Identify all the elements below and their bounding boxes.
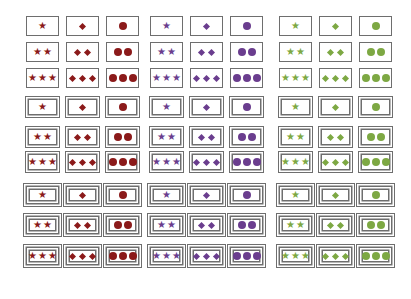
card-r3-c4-3-purple-star-single[interactable]: ★★★: [150, 68, 183, 88]
diamond-icon: [332, 74, 339, 81]
card-r4-c3-1-red-oval-double[interactable]: [105, 96, 140, 118]
card-r1-c8-1-green-diamond-single[interactable]: [319, 16, 352, 36]
card-r7-c1-1-red-star-triple[interactable]: ★: [23, 183, 62, 207]
oval-icon: [243, 103, 251, 111]
card-r7-c5-1-purple-diamond-triple[interactable]: [187, 183, 226, 207]
card-r9-c8-3-green-diamond-triple[interactable]: [316, 244, 355, 268]
diamond-icon: [322, 74, 329, 81]
oval-icon: [238, 48, 246, 56]
card-r3-c9-3-green-oval-single[interactable]: [359, 68, 392, 88]
oval-icon: [243, 74, 251, 82]
oval-icon: [124, 221, 132, 229]
oval-icon: [238, 133, 246, 141]
card-r8-c4-2-purple-star-triple[interactable]: ★★: [147, 213, 186, 237]
card-r9-c5-3-purple-diamond-triple[interactable]: [187, 244, 226, 268]
card-r5-c7-2-green-star-double[interactable]: ★★: [278, 126, 313, 148]
card-r8-c7-2-green-star-triple[interactable]: ★★: [276, 213, 315, 237]
diamond-icon: [74, 221, 81, 228]
card-r2-c6-2-purple-oval-single[interactable]: [230, 42, 263, 62]
card-r5-c6-2-purple-oval-double[interactable]: [229, 126, 264, 148]
card-r8-c1-2-red-star-triple[interactable]: ★★: [23, 213, 62, 237]
card-r3-c6-3-purple-oval-single[interactable]: [230, 68, 263, 88]
card-r1-c3-1-red-oval-single[interactable]: [106, 16, 139, 36]
oval-icon: [367, 48, 375, 56]
card-r3-c1-3-red-star-single[interactable]: ★★★: [26, 68, 59, 88]
card-r2-c2-2-red-diamond-single[interactable]: [66, 42, 99, 62]
card-r7-c6-1-purple-oval-triple[interactable]: [227, 183, 266, 207]
card-r6-c9-3-green-oval-double[interactable]: [358, 151, 393, 173]
card-r1-c2-1-red-diamond-single[interactable]: [66, 16, 99, 36]
card-r8-c6-2-purple-oval-triple[interactable]: [227, 213, 266, 237]
card-r3-c5-3-purple-diamond-single[interactable]: [190, 68, 223, 88]
card-r6-c4-3-purple-star-double[interactable]: ★★★: [149, 151, 184, 173]
diamond-icon: [193, 74, 200, 81]
card-r8-c5-2-purple-diamond-triple[interactable]: [187, 213, 226, 237]
card-r7-c4-1-purple-star-triple[interactable]: ★: [147, 183, 186, 207]
card-r6-c7-3-green-star-double[interactable]: ★★★: [278, 151, 313, 173]
card-r2-c7-2-green-star-single[interactable]: ★★: [279, 42, 312, 62]
card-r4-c6-1-purple-oval-double[interactable]: [229, 96, 264, 118]
card-r4-c2-1-red-diamond-double[interactable]: [65, 96, 100, 118]
card-r5-c3-2-red-oval-double[interactable]: [105, 126, 140, 148]
card-r3-c8-3-green-diamond-single[interactable]: [319, 68, 352, 88]
card-r4-c7-1-green-star-double[interactable]: ★: [278, 96, 313, 118]
card-r9-c4-3-purple-star-triple[interactable]: ★★★: [147, 244, 186, 268]
card-r1-c9-1-green-oval-single[interactable]: [359, 16, 392, 36]
card-r1-c1-1-red-star-single[interactable]: ★: [26, 16, 59, 36]
diamond-icon: [79, 22, 86, 29]
card-r6-c8-3-green-diamond-double[interactable]: [318, 151, 353, 173]
card-r1-c5-1-purple-diamond-single[interactable]: [190, 16, 223, 36]
card-r9-c9-3-green-oval-triple[interactable]: [356, 244, 395, 268]
card-r3-c7-3-green-star-single[interactable]: ★★★: [279, 68, 312, 88]
oval-icon: [372, 158, 380, 166]
card-r2-c5-2-purple-diamond-single[interactable]: [190, 42, 223, 62]
oval-icon: [233, 158, 241, 166]
card-r4-c8-1-green-diamond-double[interactable]: [318, 96, 353, 118]
card-r1-c6-1-purple-oval-single[interactable]: [230, 16, 263, 36]
oval-icon: [382, 158, 390, 166]
card-r5-c1-2-red-star-double[interactable]: ★★: [25, 126, 60, 148]
oval-icon: [362, 252, 370, 260]
card-r4-c4-1-purple-star-double[interactable]: ★: [149, 96, 184, 118]
card-r7-c8-1-green-diamond-triple[interactable]: [316, 183, 355, 207]
card-r5-c9-2-green-oval-double[interactable]: [358, 126, 393, 148]
card-r6-c2-3-red-diamond-double[interactable]: [65, 151, 100, 173]
card-r5-c4-2-purple-star-double[interactable]: ★★: [149, 126, 184, 148]
card-r5-c8-2-green-diamond-double[interactable]: [318, 126, 353, 148]
card-r7-c7-1-green-star-triple[interactable]: ★: [276, 183, 315, 207]
card-r5-c2-2-red-diamond-double[interactable]: [65, 126, 100, 148]
diamond-icon: [327, 133, 334, 140]
card-r8-c8-2-green-diamond-triple[interactable]: [316, 213, 355, 237]
card-r2-c9-2-green-oval-single[interactable]: [359, 42, 392, 62]
card-r9-c2-3-red-diamond-triple[interactable]: [63, 244, 102, 268]
card-r4-c1-1-red-star-double[interactable]: ★: [25, 96, 60, 118]
card-r8-c2-2-red-diamond-triple[interactable]: [63, 213, 102, 237]
card-r7-c3-1-red-oval-triple[interactable]: [103, 183, 142, 207]
star-icon: ★: [152, 251, 161, 261]
card-r2-c1-2-red-star-single[interactable]: ★★: [26, 42, 59, 62]
card-r6-c6-3-purple-oval-double[interactable]: [229, 151, 264, 173]
diamond-icon: [198, 221, 205, 228]
card-r3-c2-3-red-diamond-single[interactable]: [66, 68, 99, 88]
card-r1-c7-1-green-star-single[interactable]: ★: [279, 16, 312, 36]
card-r2-c3-2-red-oval-single[interactable]: [106, 42, 139, 62]
card-r6-c3-3-red-oval-double[interactable]: [105, 151, 140, 173]
card-r4-c9-1-green-oval-double[interactable]: [358, 96, 393, 118]
card-r2-c8-2-green-diamond-single[interactable]: [319, 42, 352, 62]
card-r8-c9-2-green-oval-triple[interactable]: [356, 213, 395, 237]
card-r7-c2-1-red-diamond-triple[interactable]: [63, 183, 102, 207]
card-r3-c3-3-red-oval-single[interactable]: [106, 68, 139, 88]
card-r2-c4-2-purple-star-single[interactable]: ★★: [150, 42, 183, 62]
card-r7-c9-1-green-oval-triple[interactable]: [356, 183, 395, 207]
card-r4-c5-1-purple-diamond-double[interactable]: [189, 96, 224, 118]
card-r9-c3-3-red-oval-triple[interactable]: [103, 244, 142, 268]
card-r5-c5-2-purple-diamond-double[interactable]: [189, 126, 224, 148]
card-r8-c3-2-red-oval-triple[interactable]: [103, 213, 142, 237]
card-r9-c6-3-purple-oval-triple[interactable]: [227, 244, 266, 268]
card-r9-c1-3-red-star-triple[interactable]: ★★★: [23, 244, 62, 268]
card-r6-c1-3-red-star-double[interactable]: ★★★: [25, 151, 60, 173]
card-r1-c4-1-purple-star-single[interactable]: ★: [150, 16, 183, 36]
card-r9-c7-3-green-star-triple[interactable]: ★★★: [276, 244, 315, 268]
card-r6-c5-3-purple-diamond-double[interactable]: [189, 151, 224, 173]
oval-icon: [362, 74, 370, 82]
